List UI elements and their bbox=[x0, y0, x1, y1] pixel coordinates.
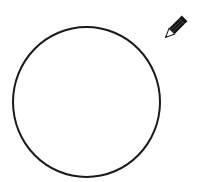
drawn-circle-shape[interactable] bbox=[12, 26, 161, 178]
pencil-icon[interactable] bbox=[160, 15, 188, 43]
drawing-canvas[interactable] bbox=[0, 0, 197, 182]
